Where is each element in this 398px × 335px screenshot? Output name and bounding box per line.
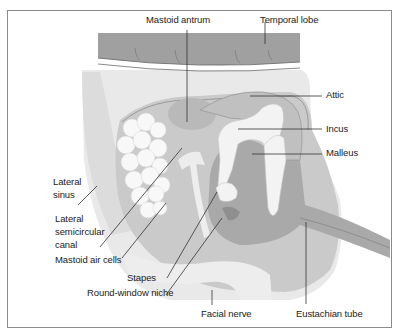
temporal-lobe — [98, 33, 300, 65]
label-facial-nerve: Facial nerve — [201, 308, 252, 321]
ear-anatomy-illustration — [0, 0, 398, 335]
label-eustachian-tube: Eustachian tube — [296, 308, 363, 321]
label-lateral-canal-line3: canal — [55, 239, 77, 252]
label-malleus: Malleus — [326, 147, 358, 160]
label-lateral-sinus-line1: Lateral — [53, 176, 81, 189]
label-mastoid-air-cells: Mastoid air cells — [55, 254, 121, 267]
label-lateral-sinus-line2: sinus — [53, 189, 75, 202]
label-attic: Attic — [326, 89, 344, 102]
label-incus: Incus — [326, 123, 348, 136]
label-stapes: Stapes — [127, 272, 156, 285]
label-temporal-lobe: Temporal lobe — [260, 14, 318, 27]
label-lateral-canal-line1: Lateral — [55, 213, 83, 226]
label-mastoid-antrum: Mastoid antrum — [146, 14, 210, 27]
label-lateral-canal-line2: semicircular — [55, 226, 104, 239]
label-round-window-niche: Round-window niche — [87, 287, 173, 300]
mastoid-antrum — [168, 98, 216, 130]
